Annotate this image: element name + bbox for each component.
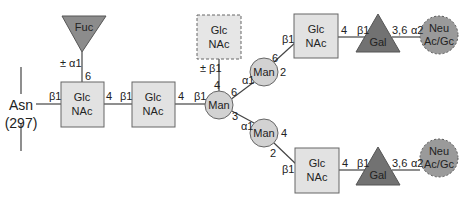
- linkage-man-lower-anomer: α1: [241, 120, 253, 132]
- man-upper-label: Man: [253, 66, 274, 78]
- glycan-diagram: Asn (297) Fuc Glc NAc Glc NAc Man Glc NA…: [0, 0, 466, 202]
- linkage-bisect-anomer: ± β1: [200, 62, 222, 74]
- linkage-asn-glcnac1: β1: [49, 90, 61, 102]
- glcnac-bisect-node: Glc NAc: [197, 15, 241, 59]
- linkage-man-upper-anomer: α1: [242, 74, 254, 86]
- man-core-node: Man: [205, 91, 233, 119]
- glcnac-bisect-dashed-square-icon: [197, 15, 241, 59]
- neu-lower-label-line2: Ac/Gc: [424, 158, 454, 170]
- neu-upper-label-line1: Neu: [429, 22, 449, 34]
- linkage-neu-upper-anomer: α2: [411, 24, 423, 36]
- glcnac2-label-line2: NAc: [143, 105, 164, 117]
- glcnac2-node: Glc NAc: [132, 82, 175, 127]
- glcnac-bisect-label-line1: Glc: [211, 24, 228, 36]
- linkage-glcnac-upper-pos: 4: [341, 24, 347, 36]
- fuc-node: Fuc: [62, 16, 106, 52]
- linkage-glcnac2-anomer: β1: [120, 90, 132, 102]
- glcnac1-label-line2: NAc: [72, 105, 93, 117]
- gal-lower-label: Gal: [369, 169, 386, 181]
- linkage-fuc-anomer: ± α1: [60, 57, 82, 69]
- asn-anchor: Asn (297): [5, 97, 38, 131]
- linkage-gal-lower-pos: 3,6: [392, 157, 407, 169]
- neu-upper-node: Neu Ac/Gc: [420, 16, 458, 54]
- linkage-glcnac-lower-anomer: β1: [282, 163, 294, 175]
- fuc-label: Fuc: [75, 21, 94, 33]
- glcnac-upper-node: Glc NAc: [294, 14, 338, 58]
- linkage-man-core-pos3: 3: [232, 110, 238, 122]
- neu-lower-label-line1: Neu: [429, 145, 449, 157]
- glcnac-lower-label-line2: NAc: [307, 171, 328, 183]
- linkage-man-lower-pos4: 4: [281, 127, 287, 139]
- linkage-bisect-pos: 4: [214, 79, 220, 91]
- glcnac-bisect-label-line2: NAc: [209, 38, 230, 50]
- linkage-man-core-pos6: 6: [231, 86, 237, 98]
- linkage-gal-upper-pos: 3,6: [392, 24, 407, 36]
- glcnac-lower-node: Glc NAc: [295, 148, 339, 193]
- linkage-neu-lower-anomer: α2: [411, 157, 423, 169]
- glcnac-upper-label-line1: Glc: [308, 23, 325, 35]
- neu-lower-node: Neu Ac/Gc: [420, 139, 458, 177]
- glcnac2-label-line1: Glc: [145, 91, 162, 103]
- glcnac-upper-label-line2: NAc: [306, 37, 327, 49]
- linkage-man-core-anomer: β1: [194, 90, 206, 102]
- man-lower-node: Man: [250, 119, 278, 147]
- linkage-fuc-pos: 6: [85, 70, 91, 82]
- glcnac1-label-line1: Glc: [74, 91, 91, 103]
- glcnac-lower-label-line1: Glc: [309, 157, 326, 169]
- glcnac1-node: Glc NAc: [61, 82, 104, 127]
- linkage-glcnac2-pos: 4: [178, 90, 184, 102]
- linkage-man-upper-pos6: 6: [272, 52, 278, 64]
- linkage-glcnac-upper-anomer: β1: [282, 33, 294, 45]
- neu-upper-label-line2: Ac/Gc: [424, 35, 454, 47]
- linkage-man-lower-pos2: 2: [270, 147, 276, 159]
- linkage-glcnac1-pos: 4: [106, 90, 112, 102]
- gal-upper-label: Gal: [369, 36, 386, 48]
- linkage-glcnac-lower-pos: 4: [342, 157, 348, 169]
- linkage-gal-lower-anomer: β1: [357, 157, 369, 169]
- man-core-label: Man: [208, 99, 229, 111]
- linkage-gal-upper-anomer: β1: [357, 24, 369, 36]
- bond-manlower-glcnaclower: [274, 143, 297, 165]
- asn-position: (297): [5, 115, 38, 131]
- glcnac-upper-square-icon: [294, 14, 338, 58]
- asn-label: Asn: [9, 97, 33, 113]
- man-lower-label: Man: [253, 127, 274, 139]
- linkage-man-upper-pos2: 2: [280, 66, 286, 78]
